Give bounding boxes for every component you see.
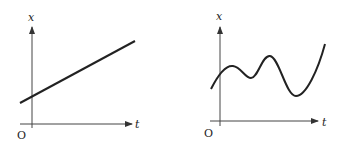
y-axis-label: x	[216, 10, 223, 23]
figure: x t O x t O	[0, 0, 340, 148]
y-axis-label: x	[28, 11, 35, 24]
x-axis-label: t	[135, 118, 140, 131]
linear-curve	[20, 41, 135, 103]
oscillating-graph: x t O	[204, 10, 327, 140]
x-axis-label: t	[322, 116, 327, 129]
origin-label: O	[204, 127, 213, 140]
oscillating-curve	[211, 44, 325, 96]
linear-graph: x t O	[17, 11, 140, 142]
origin-label: O	[17, 129, 26, 142]
